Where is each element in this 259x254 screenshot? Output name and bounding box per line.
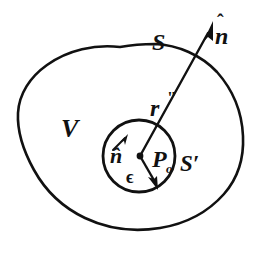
label-outer-normal: n — [215, 24, 228, 48]
label-distance-vector: r — [150, 96, 159, 120]
label-inner-normal: n̂ — [110, 145, 122, 167]
label-distance-vector-primes: " — [167, 88, 176, 108]
label-outer-surface: S — [152, 30, 165, 54]
label-inner-surface: S′ — [180, 152, 199, 175]
label-volume: V — [61, 116, 78, 142]
label-radius-epsilon: ϵ — [126, 168, 134, 186]
outer-surface-boundary — [18, 44, 243, 230]
label-center-point-subscript: o — [166, 161, 173, 177]
label-center-point: P — [152, 147, 167, 171]
vector-calculus-diagram: S V r " S′ P o ˆ n n̂ ϵ — [0, 0, 259, 254]
